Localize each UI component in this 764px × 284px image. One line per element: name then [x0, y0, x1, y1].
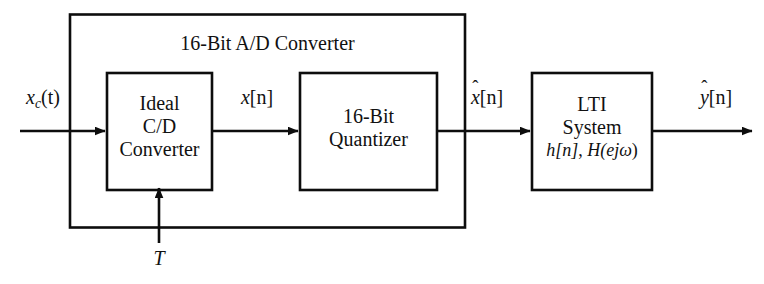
xhat-base-group: ˆx — [471, 86, 480, 109]
xn-brackets: [n] — [250, 86, 273, 108]
yhat-circumflex: ˆ — [701, 78, 707, 96]
xc-argument: (t) — [41, 86, 60, 108]
quantizer-label-line1: 16-Bit — [300, 105, 437, 128]
quantizer-label: 16-Bit Quantizer — [300, 105, 437, 151]
signal-label-T: T — [129, 247, 189, 270]
xn-base: x — [241, 86, 250, 108]
lti-separator: , — [578, 140, 587, 160]
quantizer-label-line2: Quantizer — [300, 128, 437, 151]
signal-label-xc-t: xc(t) — [8, 86, 78, 111]
xhat-circumflex: ˆ — [472, 78, 478, 96]
xc-base: x — [26, 86, 35, 108]
lti-system-impulse-response: h[n], H(ejω) — [532, 140, 652, 161]
lti-h-term: h[n] — [546, 140, 578, 160]
cd-converter-label-line1: Ideal — [107, 92, 212, 115]
lti-paren-close: ) — [632, 140, 638, 160]
signal-label-x-n: x[n] — [222, 86, 292, 109]
cd-converter-label-line2: C/D — [107, 115, 212, 138]
lti-system-label-line2: System — [532, 116, 652, 139]
signal-label-xhat-n: ˆx[n] — [449, 86, 525, 109]
signal-label-yhat-n: ˆy[n] — [678, 86, 754, 109]
xhat-brackets: [n] — [480, 86, 503, 108]
cd-converter-label: Ideal C/D Converter — [107, 92, 212, 160]
lti-system-label-line1: LTI — [532, 93, 652, 116]
yhat-brackets: [n] — [709, 86, 732, 108]
lti-H-term: H(e — [587, 140, 614, 160]
lti-exponent: jω — [614, 140, 632, 160]
block-diagram-figure: 16-Bit A/D Converter Ideal C/D Converter… — [0, 0, 764, 284]
cd-converter-label-line3: Converter — [107, 138, 212, 161]
yhat-base-group: ˆy — [700, 86, 709, 109]
lti-system-label: LTI System h[n], H(ejω) — [532, 93, 652, 160]
ad-converter-group-title: 16-Bit A/D Converter — [70, 32, 465, 55]
